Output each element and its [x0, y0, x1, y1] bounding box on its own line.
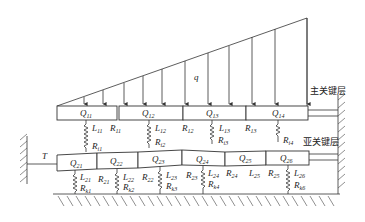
svg-text:Rk1: Rk1 [79, 183, 91, 194]
svg-text:L13: L13 [218, 123, 230, 134]
svg-text:L21: L21 [79, 172, 91, 183]
svg-text:Ri1: Ri1 [91, 141, 102, 152]
svg-text:R21: R21 [97, 174, 110, 185]
svg-text:R13: R13 [244, 123, 257, 134]
svg-text:Rk4: Rk4 [207, 179, 219, 190]
sub-key-layer-label: 亚关键层 [303, 136, 339, 147]
svg-text:R24: R24 [225, 168, 238, 179]
svg-text:Rk2: Rk2 [122, 182, 134, 193]
svg-text:L26: L26 [293, 168, 305, 179]
svg-text:L24: L24 [207, 168, 219, 179]
left-wall: T [20, 134, 57, 184]
main-key-layer-blocks: Q11 Q12 Q13 Q14 [57, 106, 338, 120]
svg-text:Ri4: Ri4 [282, 135, 293, 146]
svg-text:Ri2: Ri2 [154, 137, 165, 148]
right-wall [338, 94, 345, 194]
svg-text:Rk6: Rk6 [293, 180, 305, 191]
main-key-layer-label: 主关键层 [310, 85, 346, 96]
svg-text:R22: R22 [141, 172, 154, 183]
distributed-load: q [57, 18, 307, 106]
tension-label: T [42, 151, 48, 161]
svg-text:L11: L11 [91, 123, 103, 134]
svg-text:R23: R23 [185, 170, 198, 181]
svg-text:R12: R12 [181, 123, 194, 134]
svg-text:R25: R25 [267, 168, 280, 179]
svg-text:Ri3: Ri3 [217, 135, 228, 146]
svg-text:L12: L12 [154, 123, 166, 134]
svg-text:Rk3: Rk3 [165, 181, 177, 192]
ground [53, 194, 340, 206]
svg-text:L23: L23 [165, 170, 177, 181]
lower-labels: L21 R21 Rk1 L22 R22 Rk2 L23 R23 Rk3 L24 … [79, 168, 305, 194]
upper-labels: L11 R11 Ri1 L12 R12 Ri2 L13 R13 Ri3 Ri4 [91, 123, 293, 152]
key-layer-mechanics-diagram: q 主关键层 亚关键层 Q11 Q12 Q13 Q14 [0, 0, 365, 222]
svg-text:R11: R11 [109, 123, 121, 134]
load-label: q [194, 72, 199, 82]
svg-text:L25: L25 [248, 168, 260, 179]
